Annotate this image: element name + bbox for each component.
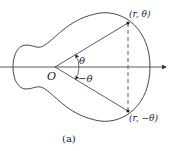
- origin-label: O: [47, 70, 56, 83]
- point-upper-label: (r, θ): [129, 9, 151, 19]
- angle-label-negative: −θ: [78, 73, 92, 84]
- figure-caption: (a): [62, 133, 76, 144]
- angle-label-positive: θ: [79, 55, 85, 66]
- point-lower-label: (r, −θ): [129, 113, 159, 123]
- point-upper: [126, 21, 129, 24]
- symmetry-diagram: O θ −θ (r, θ) (r, −θ) (a): [0, 0, 171, 151]
- ray-upper: [55, 23, 128, 67]
